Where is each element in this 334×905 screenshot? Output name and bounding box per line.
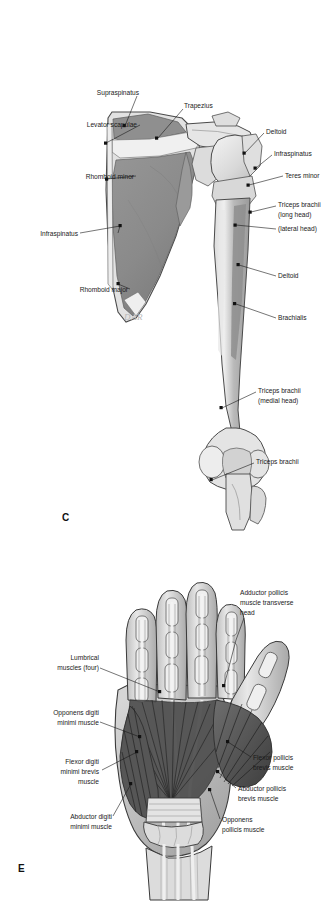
label-supraspinatus: Supraspinatus [97,89,140,97]
label-flexor-pollicis-brevis-2: brevis muscle [253,764,294,771]
leader-dot [222,684,225,687]
label-adductor-pollicis-1: Adductor pollicis [240,589,289,597]
radial-head [250,486,266,524]
label-brachialis: Brachialis [278,314,307,321]
leader-dot [220,406,223,409]
wrist-tendon [192,846,194,900]
leader-dot [233,302,236,305]
artist-signature: DAR [123,312,143,322]
label-teres-minor: Teres minor [285,172,320,179]
label-abductor-pollicis-brevis-2: brevis muscle [238,795,279,802]
leader-dot [234,224,237,227]
label-deltoid-upper: Deltoid [266,128,287,135]
label-infraspinatus-left: Infraspinatus [40,230,78,238]
leader-dot [155,137,158,140]
label-deltoid-lower: Deltoid [278,272,299,279]
figure-e-hand-palmar: E Adductor pollicis muscle transverse he… [0,560,334,905]
leader-dot [119,224,122,227]
label-flexor-digiti-minimi-2: minimi brevis [61,768,100,775]
label-triceps-lateral-head: (lateral head) [278,225,317,233]
olecranon-ulna [226,474,252,530]
label-rhomboid-minor: Rhomboid minor [86,173,135,180]
figure-c-shoulder-posterior: DAR C [0,0,334,560]
label-triceps-brachii-distal: Triceps brachii [256,458,299,466]
leader-dot [158,690,161,693]
label-triceps-long-head-2: (long head) [278,211,311,219]
label-trapezius: Trapezius [184,102,213,110]
leader-dot [216,770,219,773]
leader-dot [249,211,252,214]
label-infraspinatus-right: Infraspinatus [274,150,312,158]
panel-letter-c: C [62,512,69,523]
label-abductor-digiti-minimi-2: minimi muscle [70,823,112,830]
label-opponens-digiti-minimi-1: Opponens digiti [53,709,99,717]
label-rhomboid-major: Rhomboid major [80,286,129,294]
label-triceps-long-head-1: Triceps brachii [278,201,321,209]
label-abductor-pollicis-brevis-1: Abductor pollicis [238,785,287,793]
label-triceps-medial-head-1: Triceps brachii [258,387,301,395]
label-levator-scapulae: Levator scapulae [87,121,138,129]
leader-dot [247,184,250,187]
leader-dot [138,735,141,738]
leader-dot [237,263,240,266]
label-lumbrical-1: Lumbrical [70,654,99,661]
leader-dot [135,750,138,753]
label-triceps-medial-head-2: (medial head) [258,397,298,405]
leader-dot [243,152,246,155]
label-opponens-pollicis-2: pollicis muscle [222,826,265,834]
label-abductor-digiti-minimi-1: Abductor digiti [70,813,112,821]
label-adductor-pollicis-2: muscle transverse [240,599,294,606]
label-opponens-pollicis-1: Opponens [222,816,253,824]
leader-dot [210,478,213,481]
label-flexor-digiti-minimi-3: muscle [78,778,99,785]
label-flexor-pollicis-brevis-1: Flexor pollicis [253,754,294,762]
leader-dot [117,282,120,285]
leader-dot [104,142,107,145]
coracoid-process [212,112,240,126]
leader-dot [254,167,257,170]
medial-epicondyle [199,446,225,478]
label-adductor-pollicis-3: head [240,609,255,616]
panel-letter-e: E [18,863,25,874]
label-opponens-digiti-minimi-2: minimi muscle [57,719,99,726]
leader-dot [226,740,229,743]
leader-dot [129,782,132,785]
medial-border [107,124,113,290]
label-lumbrical-2: muscles (four) [57,664,99,672]
leader-dot [208,788,211,791]
humerus-illustration [199,134,269,530]
label-flexor-digiti-minimi-1: Flexor digiti [65,758,99,766]
